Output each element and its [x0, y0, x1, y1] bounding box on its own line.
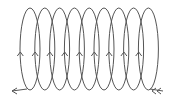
arrow-left-icon [150, 88, 163, 94]
coil-loop [124, 8, 144, 90]
arrow-left-icon [12, 88, 27, 94]
coil-loop [109, 8, 129, 90]
coil-loops [20, 8, 158, 90]
coil-loop [35, 8, 55, 90]
coil-loop [94, 8, 114, 90]
coil-loop [79, 8, 99, 90]
coil-loop [50, 8, 70, 90]
coil-loop [138, 8, 158, 90]
coil-loop [20, 8, 40, 90]
coil-loop [64, 8, 84, 90]
solenoid-diagram [0, 0, 173, 105]
